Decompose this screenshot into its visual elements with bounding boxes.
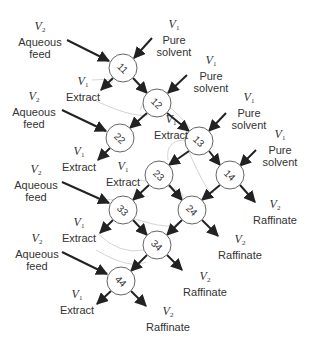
pure-solvent-label-3: V1 Pure solvent — [228, 91, 270, 131]
pure-solvent-label-1: V1 Pure solvent — [153, 18, 195, 58]
variable-v2: V2 — [215, 233, 265, 249]
raffinate-label-4: V2 Raffinate — [143, 305, 193, 333]
extract-label-6: V1 Extract — [56, 288, 98, 316]
label-line: Aqueous — [15, 248, 58, 260]
variable-v2: V2 — [16, 20, 64, 36]
stage-node-22: 22 — [106, 124, 134, 152]
extract-label-1: V1 Extract — [62, 75, 104, 103]
aqueous-feed-label-4: V2 Aqueous feed — [13, 232, 61, 272]
stage-node-44: 44 — [107, 267, 135, 295]
label-line: feed — [26, 260, 47, 272]
label-line: Raffinate — [253, 214, 297, 226]
aqueous-feed-label-2: V2 Aqueous feed — [10, 90, 58, 130]
label-line: Aqueous — [18, 36, 61, 48]
label-line: Raffinate — [218, 249, 262, 261]
label-line: Extract — [60, 304, 94, 316]
variable-v1: V1 — [58, 216, 100, 232]
label-line: Pure — [162, 34, 185, 46]
variable-v1: V1 — [58, 145, 100, 161]
raffinate-label-3: V2 Raffinate — [180, 270, 230, 298]
variable-v1: V1 — [190, 54, 232, 70]
label-line: Raffinate — [146, 321, 190, 333]
label-line: Raffinate — [183, 286, 227, 298]
stage-node-14: 14 — [216, 161, 244, 189]
variable-v1: V1 — [153, 18, 195, 34]
label-line: feed — [25, 191, 46, 203]
stage-node-24: 24 — [178, 196, 206, 224]
label-line: Pure — [268, 144, 291, 156]
stage-node-33: 33 — [109, 196, 137, 224]
variable-v2: V2 — [10, 90, 58, 106]
label-line: Extract — [154, 129, 188, 141]
stage-node-23: 23 — [145, 161, 173, 189]
variable-v1: V1 — [102, 160, 144, 176]
pure-solvent-label-4: V1 Pure solvent — [259, 128, 301, 168]
label-line: feed — [23, 118, 44, 130]
extract-label-2: V1 Extract — [58, 145, 100, 173]
pure-solvent-label-2: V1 Pure solvent — [190, 54, 232, 94]
variable-v1: V1 — [228, 91, 270, 107]
raffinate-label-1: V2 Raffinate — [250, 198, 300, 226]
label-line: Pure — [199, 70, 222, 82]
stage-node-34: 34 — [143, 231, 171, 259]
label-line: feed — [29, 48, 50, 60]
variable-v2: V2 — [143, 305, 193, 321]
label-line: Extract — [62, 161, 96, 173]
label-line: Extract — [106, 176, 140, 188]
variable-v1: V1 — [150, 113, 192, 129]
label-line: Aqueous — [12, 106, 55, 118]
variable-v2: V2 — [13, 232, 61, 248]
aqueous-feed-label-3: V2 Aqueous feed — [12, 163, 60, 203]
variable-v2: V2 — [12, 163, 60, 179]
label-line: Pure — [237, 107, 260, 119]
label-line: Extract — [62, 232, 96, 244]
variable-v1: V1 — [259, 128, 301, 144]
label-line: Extract — [66, 91, 100, 103]
label-line: solvent — [157, 46, 192, 58]
variable-v1: V1 — [62, 75, 104, 91]
label-line: solvent — [263, 156, 298, 168]
stage-node-11: 11 — [109, 54, 137, 82]
label-line: solvent — [194, 82, 229, 94]
variable-v1: V1 — [56, 288, 98, 304]
variable-v2: V2 — [180, 270, 230, 286]
variable-v2: V2 — [250, 198, 300, 214]
label-line: Aqueous — [14, 179, 57, 191]
raffinate-label-2: V2 Raffinate — [215, 233, 265, 261]
aqueous-feed-label-1: V2 Aqueous feed — [16, 20, 64, 60]
extract-label-3: V1 Extract — [150, 113, 192, 141]
extract-label-4: V1 Extract — [102, 160, 144, 188]
extract-label-5: V1 Extract — [58, 216, 100, 244]
